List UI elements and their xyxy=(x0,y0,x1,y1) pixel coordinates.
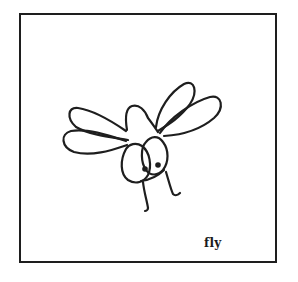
fly-icon xyxy=(0,0,298,282)
picture-label: fly xyxy=(204,236,222,250)
